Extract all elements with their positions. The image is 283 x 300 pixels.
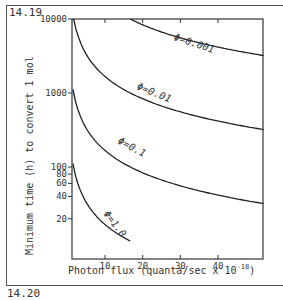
y-tick-label: 1000 [45, 88, 67, 98]
x-axis-label: Photon flux (quanta/sec x 10-18) [68, 263, 255, 276]
curve-label: Φ=0.01 [135, 81, 173, 105]
curve-label: Φ=0.001 [172, 31, 215, 54]
y-tick-label: 20 [56, 214, 67, 224]
curve-label: Φ=1.0 [101, 208, 128, 238]
y-axis-ticks: 10000100010080604020 [40, 14, 72, 224]
y-tick-label: 60 [56, 178, 67, 188]
curve-label: Φ=0.1 [116, 135, 148, 159]
y-tick-label: 10000 [40, 14, 67, 24]
data-curves [73, 19, 263, 241]
curve-line [74, 19, 263, 130]
curve-line [73, 90, 263, 205]
plot-area [72, 19, 263, 259]
curve-labels: Φ=0.001Φ=0.01Φ=0.1Φ=1.0 [101, 31, 215, 239]
y-axis-label: Minimum time (h) to convert 1 mol [24, 56, 35, 255]
y-tick-label: 40 [56, 191, 67, 201]
